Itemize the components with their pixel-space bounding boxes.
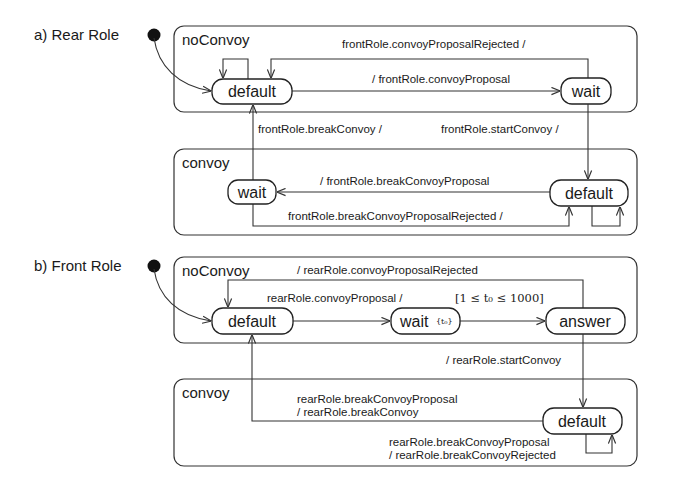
front-start-convoy-label: / rearRole.startConvoy xyxy=(446,354,561,366)
front-convoy-default-self-loop xyxy=(586,434,612,453)
state-label: default xyxy=(565,185,614,202)
state-label: default xyxy=(228,313,277,330)
front-rejected-label: / rearRole.convoyProposalRejected xyxy=(297,264,478,276)
rear-start-convoy-label: frontRole.startConvoy / xyxy=(441,123,559,135)
rear-break-rejected-label: frontRole.breakConvoyProposalRejected / xyxy=(288,210,504,222)
rear-convoy-state-wait: wait xyxy=(228,180,276,204)
rear-convoy-state-default: default xyxy=(550,180,628,206)
front-state-wait: wait {t₀} xyxy=(391,308,460,334)
front-role-title: b) Front Role xyxy=(34,257,122,274)
rear-break-convoy-label: frontRole.breakConvoy / xyxy=(258,123,383,135)
front-rejected-label-line1: rearRole.breakConvoyProposal xyxy=(389,436,549,448)
state-label: default xyxy=(228,83,277,100)
rear-rejected-label: frontRole.convoyProposalRejected / xyxy=(342,38,526,50)
rear-convoy-label: convoy xyxy=(182,154,230,171)
rear-state-wait: wait xyxy=(561,78,611,104)
front-proposal-label: rearRole.convoyProposal / xyxy=(267,292,403,304)
rear-noconvoy-label: noConvoy xyxy=(182,31,250,48)
rear-role-title: a) Rear Role xyxy=(34,26,119,43)
rear-convoy-default-self-loop xyxy=(592,206,620,226)
front-role-statechart: b) Front Role noConvoy / rearRole.convoy… xyxy=(34,257,637,466)
clock-reset-label: {t₀} xyxy=(436,317,453,326)
front-convoy-label: convoy xyxy=(182,384,230,401)
state-label: wait xyxy=(399,313,429,330)
rear-default-self-loop xyxy=(223,59,248,79)
front-break-label-line1: rearRole.breakConvoyProposal xyxy=(297,393,457,405)
state-label: wait xyxy=(571,83,601,100)
front-break-label-line2: / rearRole.breakConvoy xyxy=(297,406,419,418)
statechart-diagram: a) Rear Role noConvoy frontRole.convoyPr… xyxy=(0,0,673,493)
front-convoy-state-default: default xyxy=(543,408,622,434)
front-guard-label: [1 ≤ t₀ ≤ 1000] xyxy=(455,291,544,305)
state-label: wait xyxy=(237,184,267,201)
state-label: answer xyxy=(559,313,611,330)
front-rejected-label-line2: / rearRole.breakConvoyRejected xyxy=(389,449,556,461)
front-noconvoy-label: noConvoy xyxy=(182,262,250,279)
state-label: default xyxy=(558,413,607,430)
rear-state-default: default xyxy=(212,79,292,104)
front-state-default: default xyxy=(212,308,293,334)
rear-break-proposal-label: / frontRole.breakConvoyProposal xyxy=(320,175,489,187)
rear-role-statechart: a) Rear Role noConvoy frontRole.convoyPr… xyxy=(34,26,637,235)
rear-proposal-label: / frontRole.convoyProposal xyxy=(372,73,510,85)
front-state-answer: answer xyxy=(546,308,625,334)
